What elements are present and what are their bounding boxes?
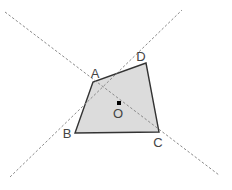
center-point-o [117,101,121,105]
label-c: C [153,135,162,150]
quadrilateral-diagram: A B C D O [0,0,232,190]
label-b: B [63,126,72,141]
label-a: A [91,66,100,81]
label-o: O [113,106,123,121]
label-d: D [136,49,145,64]
